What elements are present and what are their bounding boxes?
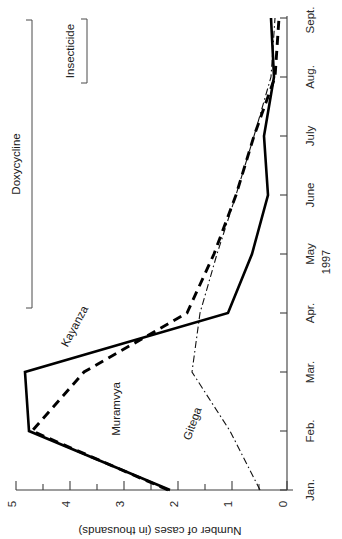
month-label-jan: Jan.	[304, 479, 316, 501]
value-tick-label-1: 1	[222, 501, 234, 507]
month-labels: Jan. Feb. Mar. Apr. May June July Aug. S…	[304, 7, 316, 501]
insecticide-label: Insecticide	[64, 24, 76, 78]
month-label-jun: June	[304, 183, 316, 208]
doxycycline-bracket	[26, 20, 32, 308]
month-label-sep: Sept.	[304, 7, 316, 34]
chart-figure: Jan. Feb. Mar. Apr. May June July Aug. S…	[0, 0, 342, 539]
value-tick-label-5: 5	[6, 501, 18, 507]
month-label-mar: Mar.	[304, 361, 316, 383]
time-axis	[280, 16, 287, 490]
series-label-kayanza: Kayanza	[59, 303, 91, 349]
insecticide-bracket	[81, 19, 87, 83]
series-label-muramvya: Muramvya	[110, 382, 122, 436]
value-tick-labels: 5 4 3 2 1 0	[6, 500, 289, 507]
annotation-insecticide: Insecticide	[64, 19, 87, 83]
value-axis-title: Number of cases (in thousands)	[78, 525, 241, 537]
value-tick-label-0: 0	[277, 501, 289, 507]
doxycycline-label: Doxycycline	[10, 133, 22, 194]
value-tick-label-2: 2	[168, 501, 180, 507]
annotation-doxycycline: Doxycycline	[10, 20, 32, 308]
series-line-muramvya	[32, 18, 279, 490]
series-line-kayanza	[25, 18, 274, 490]
series-label-gitega: Gitega	[181, 405, 204, 442]
chart-svg: Jan. Feb. Mar. Apr. May June July Aug. S…	[0, 0, 342, 539]
time-axis-title: 1997	[320, 250, 332, 274]
month-label-jul: July	[304, 126, 316, 147]
month-label-may: May	[304, 243, 316, 265]
series-line-gitega	[192, 18, 275, 490]
month-label-apr: Apr.	[304, 303, 316, 323]
value-tick-label-4: 4	[60, 500, 72, 507]
month-label-feb: Feb.	[304, 419, 316, 442]
value-tick-label-3: 3	[114, 501, 126, 507]
month-label-aug: Aug.	[304, 65, 316, 89]
